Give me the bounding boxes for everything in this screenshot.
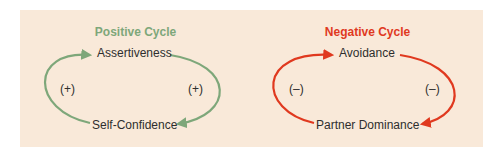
node-self-confidence: Self-Confidence — [92, 118, 177, 132]
negative-left-sign: (–) — [289, 82, 304, 96]
positive-right-sign: (+) — [188, 82, 203, 96]
positive-left-sign: (+) — [60, 82, 75, 96]
negative-cycle-title: Negative Cycle — [252, 25, 483, 39]
node-avoidance: Avoidance — [339, 46, 395, 60]
node-partner-dominance: Partner Dominance — [316, 118, 419, 132]
positive-cycle-title: Positive Cycle — [20, 25, 251, 39]
negative-right-sign: (–) — [425, 82, 440, 96]
cycles-panel: Positive Cycle Assertiveness Self-Confid… — [20, 10, 483, 147]
positive-cycle: Positive Cycle Assertiveness Self-Confid… — [20, 10, 251, 147]
negative-cycle: Negative Cycle Avoidance Partner Dominan… — [252, 10, 483, 147]
node-assertiveness: Assertiveness — [97, 46, 172, 60]
